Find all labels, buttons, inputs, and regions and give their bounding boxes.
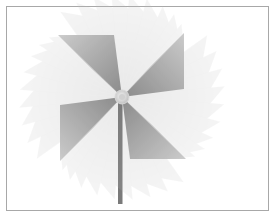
- pinwheel-illustration: [0, 0, 278, 217]
